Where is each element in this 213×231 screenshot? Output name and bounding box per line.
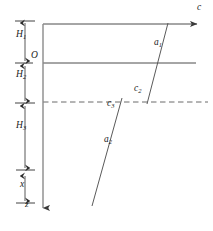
- label-c3: c3: [107, 99, 114, 109]
- label-H1: H1: [16, 30, 26, 40]
- label-z-axis: z: [25, 200, 29, 209]
- slanted-line-a2: [92, 98, 122, 206]
- label-origin: O: [31, 51, 38, 61]
- label-a2: a2: [104, 135, 112, 145]
- label-x: x: [20, 180, 24, 190]
- label-c-axis: c: [197, 3, 201, 13]
- label-c2: c2: [134, 84, 141, 94]
- label-H2: H2: [16, 70, 26, 80]
- figure-canvas: c a1 c2 c3 a2 O z H1 H2 H3 x: [0, 0, 213, 231]
- label-a1: a1: [154, 38, 162, 48]
- diagram-vector-layer: [0, 0, 213, 231]
- label-H3: H3: [16, 121, 26, 131]
